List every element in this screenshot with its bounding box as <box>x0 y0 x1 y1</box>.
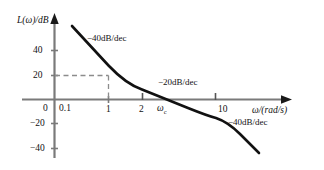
slope-label-second: −20dB/dec <box>158 78 198 87</box>
x-tick-label-2: 2 <box>139 105 144 115</box>
magnitude-curve <box>72 26 259 153</box>
y-axis-title: L(ω)/dB <box>17 16 49 26</box>
y-tick-label-0: 0 <box>43 104 48 114</box>
x-tick-label-0.1: 0.1 <box>59 104 71 114</box>
y-tick-label-40: 40 <box>33 46 43 56</box>
omega-subscript: c <box>164 108 167 115</box>
x-tick-label-10: 10 <box>218 105 228 115</box>
slope-label-first: −40dB/dec <box>87 34 127 43</box>
omega-symbol: ω <box>157 103 164 113</box>
slope-label-third: −40dB/dec <box>228 118 268 127</box>
y-axis <box>50 13 58 158</box>
y-tick-label-minus40: −40 <box>30 144 45 154</box>
x-axis-title: ω/(rad/s) <box>252 106 287 116</box>
y-tick-label-minus20: −20 <box>30 119 45 129</box>
crossover-frequency-label: ωc <box>157 104 167 115</box>
x-tick-label-1: 1 <box>106 105 111 115</box>
bode-plot-figure: L(ω)/dB ω/(rad/s) 40 20 0 −20 −40 0.1 1 … <box>0 0 324 170</box>
y-tick-label-20: 20 <box>33 71 43 81</box>
reference-dashed-lines <box>55 76 109 100</box>
